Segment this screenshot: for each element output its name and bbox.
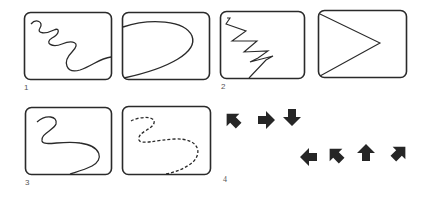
arrow-set — [220, 107, 411, 167]
triangle-frame — [319, 11, 407, 78]
arrow-northwest-icon — [323, 142, 348, 167]
s-curve-solid-frame — [26, 108, 112, 175]
s-curve-dashed-frame — [123, 107, 211, 175]
panel-label-3: 3 — [25, 178, 29, 187]
arrow-east-icon — [258, 111, 275, 129]
panel-label-1: 1 — [24, 83, 28, 92]
wavy-line-frame — [25, 13, 112, 80]
arrow-north-icon — [357, 144, 375, 161]
figure-canvas — [0, 0, 428, 198]
arrow-northwest-icon — [220, 107, 245, 132]
arrow-south-icon — [283, 109, 301, 126]
arrow-northeast-icon — [387, 140, 412, 165]
panel-label-4: 4 — [223, 175, 227, 184]
parabola-frame — [123, 13, 210, 80]
arrow-west-icon — [300, 148, 317, 166]
panel-label-2: 2 — [221, 82, 225, 91]
zigzag-frame — [221, 12, 305, 79]
